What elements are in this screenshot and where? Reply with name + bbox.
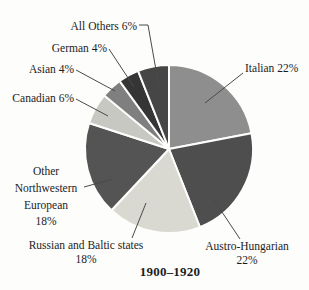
slice-label-line: Other [3,163,89,180]
slice-label-line: Russian and Baltic states [20,239,152,253]
pie-slices-group [85,65,253,233]
slice-label-line: Austro-Hungarian [192,240,302,254]
chart-title: 1900–1920 [119,265,221,279]
slice-label-german: German 4% [52,42,107,55]
pie-chart-figure: All Others 6% German 4% Asian 4% Canadia… [0,0,309,290]
slice-label-other-northwestern-european: Other Northwestern European 18% [3,163,89,230]
slice-label-line: 18% [20,253,152,267]
slice-label-line: 18% [3,213,89,230]
slice-label-austro-hungarian: Austro-Hungarian 22% [192,240,302,267]
slice-label-canadian: Canadian 6% [12,92,74,105]
slice-label-all-others: All Others 6% [71,20,137,33]
slice-label-asian: Asian 4% [29,63,74,76]
slice-label-line: European [3,197,89,214]
leader-line-asian [76,70,115,91]
slice-label-russian-baltic: Russian and Baltic states 18% [20,239,152,266]
slice-label-line: Northwestern [3,180,89,197]
slice-label-italian: Italian 22% [245,62,298,75]
